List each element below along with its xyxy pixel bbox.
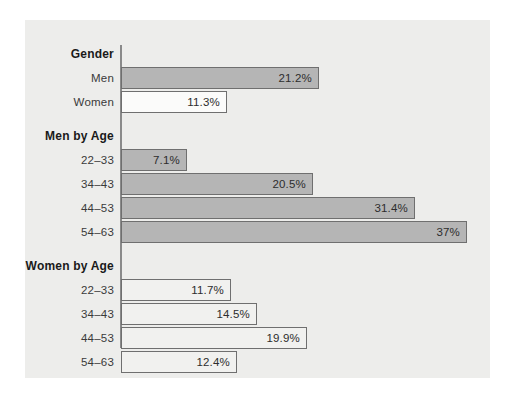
group-header-label: Men by Age <box>24 124 114 148</box>
chart-bar-row[interactable]: 34–4314.5% <box>25 302 490 326</box>
bar-value-label: 11.7% <box>191 284 230 296</box>
bar-category-label: 34–43 <box>24 172 114 196</box>
bar[interactable]: 7.1% <box>121 149 187 171</box>
bar-value-label: 14.5% <box>216 308 256 320</box>
bar-value-label: 7.1% <box>153 154 186 166</box>
group-header-label: Women by Age <box>24 254 114 278</box>
bar-category-label: 44–53 <box>24 326 114 350</box>
bar-chart-plot: GenderMen21.2%Women11.3%Men by Age22–337… <box>25 20 490 378</box>
bar-value-label: 12.4% <box>196 356 236 368</box>
bar[interactable]: 37% <box>121 221 467 243</box>
bar[interactable]: 11.3% <box>121 91 227 113</box>
bar-category-label: 22–33 <box>24 148 114 172</box>
chart-bar-row[interactable]: 44–5331.4% <box>25 196 490 220</box>
bar-value-label: 21.2% <box>278 72 318 84</box>
bar-value-label: 11.3% <box>187 96 226 108</box>
bar[interactable]: 12.4% <box>121 351 237 373</box>
group-header-label: Gender <box>24 42 114 66</box>
bar-value-label: 31.4% <box>374 202 414 214</box>
chart-bar-row[interactable]: 22–3311.7% <box>25 278 490 302</box>
chart-bar-row[interactable]: Men21.2% <box>25 66 490 90</box>
bar[interactable]: 21.2% <box>121 67 319 89</box>
chart-bar-row[interactable]: Women11.3% <box>25 90 490 114</box>
chart-group-header: Men by Age <box>25 124 490 148</box>
bar[interactable]: 31.4% <box>121 197 415 219</box>
bar-value-label: 19.9% <box>266 332 306 344</box>
bar[interactable]: 11.7% <box>121 279 231 301</box>
bar-category-label: 54–63 <box>24 220 114 244</box>
chart-panel: GenderMen21.2%Women11.3%Men by Age22–337… <box>25 20 490 378</box>
chart-bar-row[interactable]: 22–337.1% <box>25 148 490 172</box>
bar-category-label: Women <box>24 90 114 114</box>
bar[interactable]: 20.5% <box>121 173 313 195</box>
bar[interactable]: 14.5% <box>121 303 257 325</box>
chart-bar-row[interactable]: 34–4320.5% <box>25 172 490 196</box>
chart-bar-row[interactable]: 54–6312.4% <box>25 350 490 374</box>
chart-group-header: Gender <box>25 42 490 66</box>
bar-category-label: 34–43 <box>24 302 114 326</box>
bar-category-label: Men <box>24 66 114 90</box>
bar-category-label: 22–33 <box>24 278 114 302</box>
bar-category-label: 44–53 <box>24 196 114 220</box>
bar-category-label: 54–63 <box>24 350 114 374</box>
bar[interactable]: 19.9% <box>121 327 307 349</box>
bar-value-label: 37% <box>436 226 466 238</box>
bar-value-label: 20.5% <box>272 178 312 190</box>
chart-bar-row[interactable]: 54–6337% <box>25 220 490 244</box>
chart-bar-row[interactable]: 44–5319.9% <box>25 326 490 350</box>
chart-group-header: Women by Age <box>25 254 490 278</box>
